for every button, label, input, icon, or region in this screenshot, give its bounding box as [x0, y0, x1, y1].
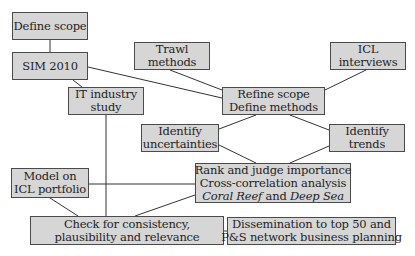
coral-reef-label: Coral Reef	[202, 189, 262, 203]
node-label-line-1: Check for consistency,	[64, 218, 190, 231]
edge-icl-interviews-refine	[325, 70, 366, 90]
node-label-line-2: P&S network business planning	[221, 231, 402, 244]
node-sim-2010: SIM 2010	[12, 52, 88, 80]
node-identify-uncertainties: Identify uncertainties	[141, 124, 219, 152]
edge-model-check	[50, 198, 78, 216]
node-dissemination: Dissemination to top 50 and P&S network …	[227, 217, 396, 245]
node-label: SIM 2010	[22, 60, 78, 73]
node-label-line-2: ICL portfolio	[14, 183, 86, 196]
node-rank-and-judge-importance: Rank and judge importance Cross-correlat…	[195, 163, 351, 203]
edge-refine-uncertainties	[219, 115, 256, 129]
node-icl-interviews: ICL interviews	[330, 42, 406, 70]
node-label-line-1: Rank and judge importance	[195, 164, 352, 177]
node-label-line-2: interviews	[339, 56, 398, 69]
node-refine-scope-define-methods: Refine scope Define methods	[222, 87, 325, 115]
node-trawl-methods: Trawl methods	[134, 42, 210, 70]
edge-sim-it-industry	[73, 80, 82, 87]
node-label-line-2: uncertainties	[143, 138, 218, 151]
node-identify-trends: Identify trends	[329, 124, 405, 152]
node-label-line-2: methods	[148, 56, 197, 69]
node-model-on-icl-portfolio: Model on ICL portfolio	[11, 168, 89, 198]
edge-refine-trends	[290, 115, 329, 130]
node-label-line-2: trends	[349, 138, 385, 151]
node-check-for-consistency: Check for consistency, plausibility and …	[30, 216, 224, 245]
node-label-line-2: Define methods	[229, 101, 318, 114]
deep-sea-label: Deep Sea	[290, 189, 344, 203]
flowchart-canvas: Define scope SIM 2010 Trawl methods ICL …	[0, 0, 415, 256]
and-label: and	[262, 189, 290, 203]
edge-trends-rank	[290, 146, 329, 163]
edge-trawl-refine	[170, 70, 222, 90]
node-label-line-2: study	[91, 101, 122, 114]
node-it-industry-study: IT industry study	[68, 87, 144, 115]
node-label-line-3: Coral Reef and Deep Sea	[202, 190, 344, 203]
node-define-scope: Define scope	[12, 12, 88, 40]
edge-uncertainties-rank	[219, 145, 256, 163]
node-label-line-2: plausibility and relevance	[55, 231, 200, 244]
node-label: Define scope	[14, 20, 87, 33]
edge-rank-check	[135, 195, 195, 216]
